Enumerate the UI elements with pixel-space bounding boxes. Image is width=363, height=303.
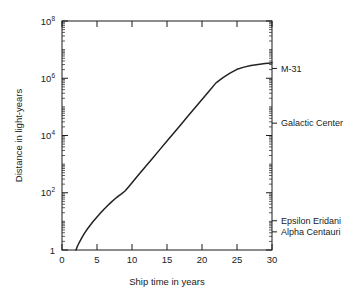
y-axis-title: Distance in light-years [13, 89, 24, 183]
x-tick-label: 5 [94, 254, 99, 265]
plot-svg: 1102104106108 051015202530 M-31Galactic … [0, 0, 363, 303]
y-tick-label: 1 [50, 245, 55, 256]
x-tick-label: 0 [59, 254, 64, 265]
annotation-label: Galactic Center [281, 118, 343, 128]
x-tick-label: 10 [127, 254, 138, 265]
x-tick-label: 25 [232, 254, 243, 265]
x-tick-label: 15 [162, 254, 173, 265]
x-axis-title: Ship time in years [129, 276, 205, 287]
x-tick-label: 30 [267, 254, 278, 265]
chart-figure: 1102104106108 051015202530 M-31Galactic … [0, 0, 363, 303]
annotation-label: Alpha Centauri [281, 227, 341, 237]
x-tick-label: 20 [197, 254, 208, 265]
figure-background [0, 0, 363, 303]
annotation-label: Epsilon Eridani [281, 216, 341, 226]
annotation-label: M-31 [281, 64, 302, 74]
